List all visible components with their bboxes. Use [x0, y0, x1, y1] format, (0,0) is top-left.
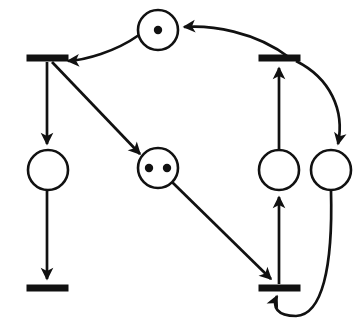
arc-t2-to-p1 [184, 27, 290, 58]
token-p3-1 [145, 164, 153, 172]
token-p3-2 [163, 164, 171, 172]
token-p1-1 [154, 26, 162, 34]
place-p4[interactable] [259, 150, 299, 190]
petri-net-diagram [0, 0, 363, 324]
place-circle-p4 [259, 150, 299, 190]
arc-p3-to-t4 [172, 182, 271, 279]
diagram-canvas [0, 0, 363, 324]
place-p1[interactable] [138, 10, 178, 50]
arc-t1-to-p3 [52, 62, 140, 154]
transition-t2[interactable] [259, 55, 300, 61]
place-circle-p3 [138, 148, 178, 188]
transition-t3[interactable] [27, 285, 68, 291]
arc-p5-to-t4 [275, 191, 331, 316]
place-circle-p2 [28, 150, 68, 190]
place-circle-p5 [311, 150, 351, 190]
transition-t1[interactable] [27, 55, 68, 61]
place-p5[interactable] [311, 150, 351, 190]
arc-t2-to-p5 [296, 61, 340, 144]
place-p2[interactable] [28, 150, 68, 190]
transition-t4[interactable] [259, 285, 300, 291]
arc-p1-to-t1 [68, 35, 139, 61]
places-layer [28, 10, 351, 190]
place-p3[interactable] [138, 148, 178, 188]
